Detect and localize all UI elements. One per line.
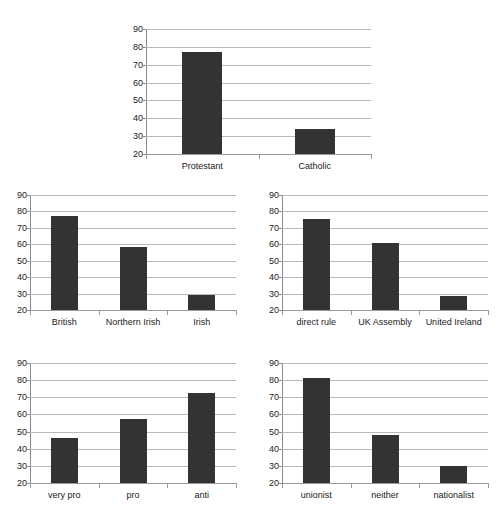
y-tick-mark-90 [278, 363, 282, 364]
x-tick-0 [99, 310, 100, 315]
y-tick-mark-30 [278, 466, 282, 467]
x-tick-label-0: Protestant [171, 161, 233, 172]
gridline-90 [146, 29, 371, 30]
y-tick-mark-90 [142, 29, 146, 30]
x-tick-0 [259, 154, 260, 159]
x-tick-label-1: neither [354, 490, 416, 501]
y-tick-mark-40 [142, 118, 146, 119]
x-tick-label-1: UK Assembly [354, 317, 416, 328]
y-tick-mark-80 [278, 211, 282, 212]
x-tick-1 [419, 310, 420, 315]
bar-religion-0 [182, 52, 222, 154]
gridline-90 [30, 363, 236, 364]
plot-wrap: 2030405060708090unionistneithernationali… [256, 356, 496, 521]
gridline-30 [146, 136, 371, 137]
plot-area [30, 363, 236, 483]
bar-political-alignment-2 [440, 466, 467, 483]
gridline-90 [30, 195, 236, 196]
gridline-80 [282, 211, 488, 212]
x-tick-origin [282, 310, 283, 315]
bar-national-identity-1 [120, 247, 147, 310]
y-tick-mark-50 [26, 261, 30, 262]
plot-area [30, 195, 236, 310]
y-tick-mark-60 [26, 244, 30, 245]
gridline-90 [282, 363, 488, 364]
y-tick-mark-70 [142, 65, 146, 66]
y-tick-mark-40 [26, 277, 30, 278]
bar-political-alignment-1 [372, 435, 399, 483]
x-tick-2 [236, 483, 237, 488]
x-tick-label-2: anti [171, 490, 233, 501]
y-tick-mark-80 [26, 380, 30, 381]
x-tick-label-2: Irish [171, 317, 233, 328]
y-tick-mark-40 [278, 277, 282, 278]
bar-political-alignment-0 [303, 378, 330, 483]
x-tick-1 [167, 483, 168, 488]
y-tick-mark-90 [26, 363, 30, 364]
gridline-80 [30, 380, 236, 381]
x-tick-origin [30, 310, 31, 315]
y-tick-mark-90 [278, 195, 282, 196]
x-tick-0 [351, 310, 352, 315]
x-tick-label-0: very pro [33, 490, 95, 501]
bar-constitutional-preference-1 [372, 243, 399, 310]
chart-panel-agreement-stance: 2030405060708090very proproanti [4, 356, 244, 521]
chart-panel-national-identity: 2030405060708090BritishNorthern IrishIri… [4, 188, 244, 348]
x-tick-2 [236, 310, 237, 315]
x-tick-1 [371, 154, 372, 159]
x-tick-label-2: United Ireland [423, 317, 485, 328]
gridline-20 [282, 310, 488, 311]
gridline-80 [30, 211, 236, 212]
bar-agreement-stance-2 [188, 393, 215, 483]
y-tick-mark-60 [26, 414, 30, 415]
x-tick-1 [167, 310, 168, 315]
y-tick-mark-60 [278, 414, 282, 415]
y-tick-mark-50 [142, 100, 146, 101]
x-tick-1 [419, 483, 420, 488]
gridline-50 [146, 100, 371, 101]
bar-constitutional-preference-0 [303, 219, 330, 310]
x-tick-label-0: British [33, 317, 95, 328]
plot-area [146, 29, 371, 154]
bar-constitutional-preference-2 [440, 296, 467, 310]
chart-panel-political-alignment: 2030405060708090unionistneithernationali… [256, 356, 496, 521]
plot-area [282, 195, 488, 310]
gridline-40 [146, 118, 371, 119]
y-tick-mark-50 [26, 432, 30, 433]
y-tick-mark-70 [278, 397, 282, 398]
bar-agreement-stance-0 [51, 438, 78, 483]
gridline-20 [30, 310, 236, 311]
x-tick-label-0: direct rule [285, 317, 347, 328]
y-tick-mark-70 [26, 228, 30, 229]
y-tick-mark-80 [278, 380, 282, 381]
y-tick-mark-40 [278, 449, 282, 450]
gridline-80 [146, 47, 371, 48]
x-tick-2 [488, 483, 489, 488]
y-tick-mark-50 [278, 432, 282, 433]
x-tick-label-1: pro [102, 490, 164, 501]
x-tick-0 [99, 483, 100, 488]
y-tick-mark-30 [26, 466, 30, 467]
x-tick-origin [282, 483, 283, 488]
y-axis-labels: 2030405060708090 [112, 29, 146, 154]
bar-religion-1 [295, 129, 335, 154]
gridline-60 [146, 83, 371, 84]
bar-agreement-stance-1 [120, 419, 147, 483]
y-tick-mark-70 [26, 397, 30, 398]
bar-national-identity-0 [51, 216, 78, 310]
x-tick-label-1: Catholic [284, 161, 346, 172]
chart-panel-religion: 2030405060708090ProtestantCatholic [112, 22, 380, 182]
x-tick-label-0: unionist [285, 490, 347, 501]
y-tick-mark-80 [26, 211, 30, 212]
plot-area [282, 363, 488, 483]
bar-national-identity-2 [188, 295, 215, 310]
x-tick-2 [488, 310, 489, 315]
x-tick-0 [351, 483, 352, 488]
chart-panel-constitutional-preference: 2030405060708090direct ruleUK AssemblyUn… [256, 188, 496, 348]
y-tick-mark-40 [26, 449, 30, 450]
y-tick-mark-70 [278, 228, 282, 229]
gridline-20 [282, 483, 488, 484]
plot-wrap: 2030405060708090very proproanti [4, 356, 244, 521]
x-tick-label-2: nationalist [423, 490, 485, 501]
y-tick-mark-30 [142, 136, 146, 137]
